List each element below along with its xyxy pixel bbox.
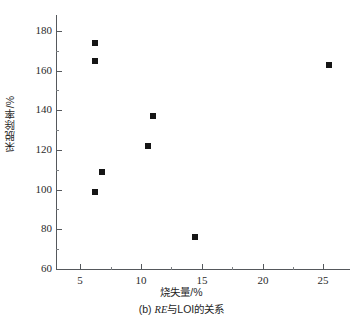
x-tick-minor — [171, 267, 172, 270]
y-tick-label: 140 — [18, 104, 52, 115]
y-tick-major — [56, 190, 62, 191]
y-tick-major — [56, 269, 62, 270]
data-point-marker — [92, 58, 98, 64]
x-tick-major — [323, 264, 324, 270]
x-tick-minor — [293, 267, 294, 270]
x-tick-label: 25 — [310, 275, 336, 286]
y-tick-major — [56, 229, 62, 230]
x-tick-major — [141, 264, 142, 270]
caption-suffix: 与LOI的关系 — [167, 303, 224, 315]
y-tick-major — [56, 150, 62, 151]
data-point-marker — [192, 234, 198, 240]
y-tick-minor — [56, 90, 59, 91]
data-point-marker — [92, 189, 98, 195]
y-tick-minor — [56, 209, 59, 210]
plot-area — [56, 15, 350, 269]
y-tick-label: 120 — [18, 144, 52, 155]
data-point-marker — [150, 113, 156, 119]
x-tick-label: 15 — [189, 275, 215, 286]
x-tick-major — [202, 264, 203, 270]
y-tick-major — [56, 110, 62, 111]
x-tick-minor — [111, 267, 112, 270]
y-tick-label: 180 — [18, 25, 52, 36]
scatter-chart-figure: 6080100120140160180 510152025 采脱除率/% 烧失量… — [0, 0, 363, 323]
x-tick-major — [263, 264, 264, 270]
data-point-marker — [145, 143, 151, 149]
y-axis-title: 采脱除率/% — [4, 96, 20, 152]
x-tick-minor — [232, 267, 233, 270]
y-tick-major — [56, 71, 62, 72]
x-axis-line — [56, 269, 350, 270]
y-tick-minor — [56, 130, 59, 131]
caption-prefix: (b) — [139, 303, 152, 315]
y-tick-label: 80 — [18, 223, 52, 234]
x-tick-label: 20 — [250, 275, 276, 286]
caption-series-name: RE — [155, 304, 168, 315]
y-tick-label: 160 — [18, 65, 52, 76]
figure-caption: (b) RE与LOI的关系 — [0, 303, 363, 316]
y-tick-minor — [56, 51, 59, 52]
data-point-marker — [99, 169, 105, 175]
x-axis-title: 烧失量/% — [0, 286, 363, 298]
x-tick-label: 10 — [128, 275, 154, 286]
y-tick-minor — [56, 249, 59, 250]
x-tick-major — [80, 264, 81, 270]
y-axis-line — [56, 15, 57, 270]
y-tick-label: 100 — [18, 184, 52, 195]
data-point-marker — [92, 40, 98, 46]
data-point-marker — [326, 62, 332, 68]
y-tick-major — [56, 31, 62, 32]
y-tick-minor — [56, 170, 59, 171]
y-tick-label: 60 — [18, 263, 52, 274]
x-tick-label: 5 — [67, 275, 93, 286]
